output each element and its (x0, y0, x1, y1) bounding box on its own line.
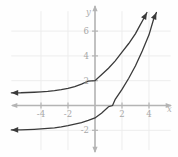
x-tick-label: -4 (37, 109, 45, 119)
y-tick-label: 4 (84, 51, 89, 61)
y-tick-label: -2 (81, 125, 89, 135)
graph-canvas: -4-224642-2 x y (0, 0, 178, 157)
y-tick-label: 2 (84, 76, 89, 86)
y-axis-label: y (85, 7, 91, 17)
y-tick-label: 6 (84, 26, 89, 36)
x-tick-label: 2 (119, 109, 124, 119)
chart-background (0, 0, 178, 157)
coordinate-plane-chart: -4-224642-2 x y (0, 0, 178, 157)
x-tick-label: 4 (146, 109, 151, 119)
x-tick-label: -2 (64, 109, 72, 119)
x-axis-label: x (167, 104, 172, 114)
